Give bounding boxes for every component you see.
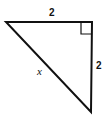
right-angle-marker — [81, 22, 92, 34]
right-triangle-diagram: 2 2 x — [0, 0, 110, 116]
right-side-label: 2 — [96, 61, 102, 71]
triangle-figure — [0, 0, 110, 116]
hypotenuse-label: x — [37, 66, 42, 77]
top-side-label: 2 — [49, 8, 55, 18]
triangle-outline — [6, 22, 92, 112]
